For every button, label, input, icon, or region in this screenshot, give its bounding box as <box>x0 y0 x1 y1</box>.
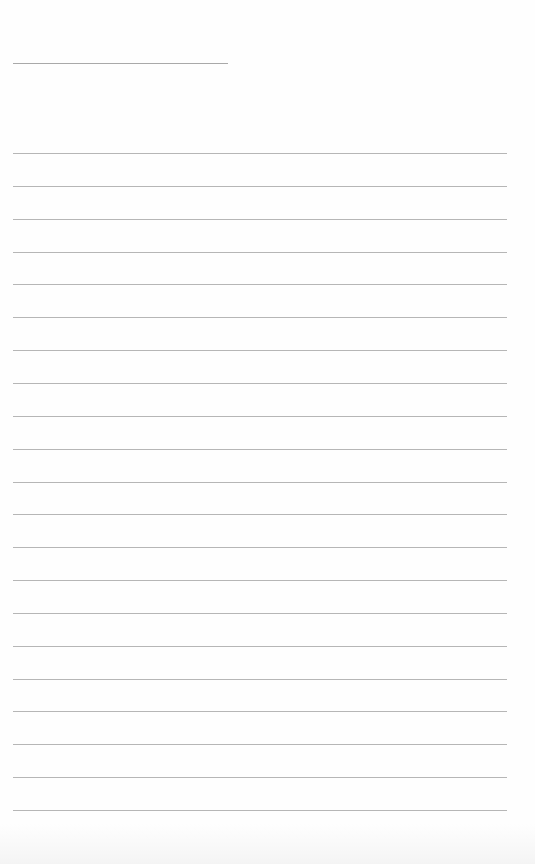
ruled-line <box>13 153 507 154</box>
ruled-line <box>13 186 507 187</box>
ruled-line <box>13 449 507 450</box>
bottom-shadow <box>0 824 535 864</box>
ruled-line <box>13 679 507 680</box>
ruled-line <box>13 317 507 318</box>
ruled-line <box>13 810 507 811</box>
ruled-line <box>13 383 507 384</box>
header-title-line <box>13 63 228 64</box>
ruled-line <box>13 482 507 483</box>
ruled-line <box>13 580 507 581</box>
ruled-line <box>13 350 507 351</box>
ruled-line <box>13 613 507 614</box>
ruled-line <box>13 514 507 515</box>
ruled-line <box>13 219 507 220</box>
ruled-line <box>13 744 507 745</box>
ruled-line <box>13 284 507 285</box>
lined-paper-page <box>0 0 535 864</box>
ruled-line <box>13 252 507 253</box>
ruled-line <box>13 711 507 712</box>
ruled-line <box>13 777 507 778</box>
ruled-line <box>13 547 507 548</box>
ruled-line <box>13 646 507 647</box>
ruled-line <box>13 416 507 417</box>
